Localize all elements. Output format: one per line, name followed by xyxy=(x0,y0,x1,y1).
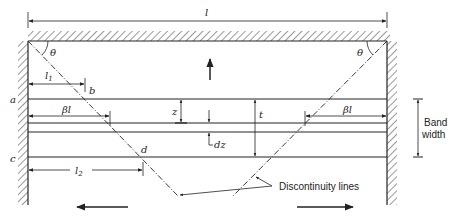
beta-l-right-label: βl xyxy=(342,104,352,115)
right-support xyxy=(387,41,397,205)
left-support xyxy=(18,41,28,205)
band-lines xyxy=(28,99,387,157)
point-b: b xyxy=(89,85,95,96)
point-a: a xyxy=(10,94,16,105)
l2-dimension: l2 xyxy=(29,162,143,178)
discontinuity-label: Discontinuity lines xyxy=(279,181,359,192)
band-width-dimension: Band width xyxy=(413,99,447,157)
span-dimension: l xyxy=(28,7,387,28)
point-d: d xyxy=(141,144,147,155)
z-label: z xyxy=(171,106,178,117)
band-width-label-2: width xyxy=(421,129,445,140)
point-c: c xyxy=(10,153,16,164)
t-label: t xyxy=(259,109,264,120)
span-label: l xyxy=(205,7,208,18)
dz-dimension: dz xyxy=(209,110,226,150)
discontinuity-line-right xyxy=(233,41,387,196)
beta-l-left-label: βl xyxy=(61,104,71,115)
band-width-label-1: Band xyxy=(424,117,447,128)
z-dimension: z xyxy=(171,100,187,123)
l1-dimension: l1 xyxy=(29,70,85,92)
theta-right: θ xyxy=(357,47,363,58)
diagram-canvas: l θ θ a b c d l1 βl xyxy=(0,0,457,222)
dz-label: dz xyxy=(214,139,226,150)
angle-arc-left xyxy=(42,41,48,55)
t-dimension: t xyxy=(255,100,264,156)
discontinuity-leader: Discontinuity lines xyxy=(180,177,359,195)
theta-left: θ xyxy=(50,47,56,58)
discontinuity-line-left xyxy=(28,41,178,196)
angle-arc-right xyxy=(367,41,373,55)
l1-label: l1 xyxy=(45,70,53,83)
top-flange xyxy=(28,31,390,41)
